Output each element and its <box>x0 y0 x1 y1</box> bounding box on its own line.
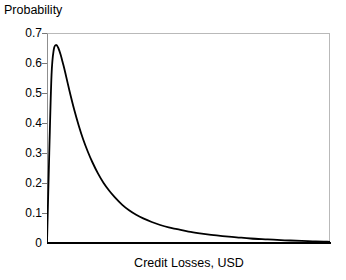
y-axis-tick-labels: 0.70.60.50.40.30.20.10 <box>0 0 42 280</box>
y-axis-tick-label: 0.5 <box>0 87 42 99</box>
curve-path <box>47 45 330 243</box>
y-axis-tick-label: 0.3 <box>0 147 42 159</box>
y-axis-tick-label: 0.7 <box>0 27 42 39</box>
y-axis-tick-label: 0.6 <box>0 57 42 69</box>
y-axis-tick-label: 0.1 <box>0 207 42 219</box>
y-axis-tick-label: 0.2 <box>0 177 42 189</box>
chart-container: Probability 0.70.60.50.40.30.20.10 Credi… <box>0 0 346 280</box>
y-axis-tick-label: 0 <box>0 237 42 249</box>
probability-density-curve <box>47 33 330 243</box>
x-axis-title: Credit Losses, USD <box>47 256 331 271</box>
y-axis-tick-label: 0.4 <box>0 117 42 129</box>
